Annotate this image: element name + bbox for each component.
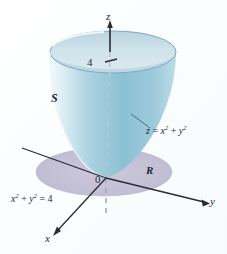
paraboloid-diagram: z 4 0 y x S R z = x2 + y2 x2 + y2 = 4: [0, 0, 227, 254]
circle-eq-plus: +: [19, 193, 30, 204]
surface-eq-plus: +: [168, 125, 179, 136]
y-axis-label: y: [210, 196, 215, 207]
surface-eq-equals: =: [150, 125, 161, 136]
region-label-R: R: [146, 165, 153, 176]
surface-equation-label: z = x2 + y2: [146, 126, 187, 136]
z-tick-label-4: 4: [87, 57, 93, 68]
z-axis-label: z: [106, 11, 110, 22]
diagram-canvas: [0, 0, 227, 254]
x-axis-label: x: [45, 233, 50, 244]
surface-label-S: S: [51, 92, 58, 104]
circle-equation-label: x2 + y2 = 4: [11, 194, 53, 204]
origin-label: 0: [95, 174, 101, 185]
circle-eq-equals: =: [37, 193, 48, 204]
circle-eq-rhs: 4: [48, 193, 53, 204]
surface-eq-y-exponent: 2: [183, 124, 186, 131]
